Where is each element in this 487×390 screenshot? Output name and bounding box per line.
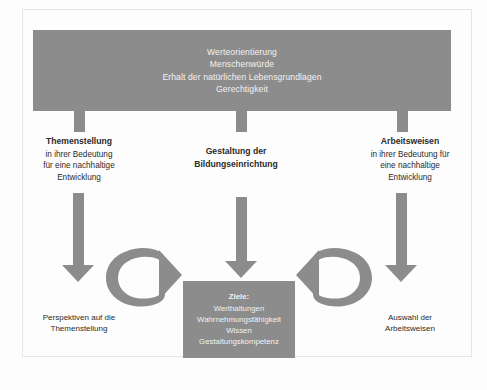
values-bar: Werteorientierung Menschenwürde Erhalt d…	[33, 30, 451, 111]
caption-auswahl-line-2: Arbeitsweisen	[340, 323, 480, 334]
goals-item-3: Wissen	[197, 325, 281, 336]
curve-body	[313, 248, 372, 306]
values-line-3: Erhalt der natürlichen Lebensgrundlagen	[162, 72, 321, 82]
goals-box: Ziele: Werthaltungen Wahrnehmungsfähigke…	[183, 281, 295, 358]
goals-item-1: Werthaltungen	[197, 303, 281, 314]
pillar-arbeitsweisen-head: Arbeitsweisen	[335, 136, 485, 148]
goals-item-2: Wahrnehmungsfähigkeit	[197, 314, 281, 325]
caption-auswahl: Auswahl der Arbeitsweisen	[340, 312, 480, 335]
pillar-arbeitsweisen-sub-2: eine nachhaltige	[335, 160, 485, 172]
arrow-shaft	[236, 197, 247, 262]
caption-auswahl-line-1: Auswahl der	[340, 312, 480, 323]
stem-themenstellung	[74, 110, 85, 132]
pillar-themenstellung-head: Themenstellung	[4, 136, 154, 148]
caption-perspektiven-line-1: Perspektiven auf die	[9, 312, 149, 323]
pillar-arbeitsweisen: Arbeitsweisen in ihrer Bedeutung für ein…	[335, 136, 485, 183]
arrow-shaft	[396, 193, 407, 266]
curve-body	[106, 248, 165, 306]
pillar-gestaltung: Gestaltung der Bildungseinrichtung	[161, 146, 311, 171]
stem-gestaltung	[236, 110, 247, 132]
page-frame-top	[22, 9, 472, 10]
pillar-themenstellung: Themenstellung in ihrer Bedeutung für ei…	[4, 136, 154, 183]
diagram-canvas: Werteorientierung Menschenwürde Erhalt d…	[0, 0, 487, 390]
pillar-themenstellung-sub-1: in ihrer Bedeutung	[4, 149, 154, 161]
arrow-head	[225, 261, 257, 278]
arrow-head	[385, 265, 417, 282]
caption-perspektiven-line-2: Themenstellung	[9, 323, 149, 334]
pillar-gestaltung-head: Gestaltung der	[161, 146, 311, 158]
values-line-4: Gerechtigkeit	[216, 84, 268, 94]
pillar-gestaltung-head-2: Bildungseinrichtung	[161, 159, 311, 171]
pillar-themenstellung-sub-2: für eine nachhaltige	[4, 160, 154, 172]
stem-arbeitsweisen	[397, 110, 408, 132]
arrow-shaft	[73, 193, 84, 266]
curved-arrow-right-pointing-icon	[104, 248, 182, 314]
pillar-arbeitsweisen-sub-1: in ihrer Bedeutung für	[335, 149, 485, 161]
pillar-arbeitsweisen-sub-3: Entwicklung	[335, 172, 485, 184]
pillar-themenstellung-sub-3: Entwicklung	[4, 172, 154, 184]
arrow-head	[62, 265, 94, 282]
goals-head: Ziele:	[197, 291, 281, 302]
curved-arrow-left-pointing-icon	[296, 248, 374, 314]
values-line-1: Werteorientierung	[207, 47, 277, 57]
curve-arrowhead	[296, 250, 319, 300]
caption-perspektiven: Perspektiven auf die Themenstellung	[9, 312, 149, 335]
goals-item-4: Gestaltungskompetenz	[197, 336, 281, 347]
curve-arrowhead	[159, 250, 182, 300]
values-line-2: Menschenwürde	[210, 59, 274, 69]
